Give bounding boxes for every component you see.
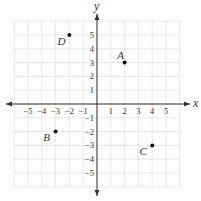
y-axis-arrow-icon — [95, 190, 100, 196]
y-tick-label: 4 — [90, 44, 95, 54]
y-tick-label: 5 — [90, 30, 94, 40]
y-tick-label: −3 — [85, 140, 94, 150]
x-tick-label: 5 — [164, 106, 168, 116]
y-axis-arrow-icon — [95, 14, 100, 20]
x-axis-label: x — [192, 96, 199, 110]
point-label-c: C — [140, 145, 148, 157]
point-d — [67, 33, 71, 37]
x-tick-label: −2 — [65, 106, 74, 116]
y-tick-label: −1 — [85, 113, 94, 123]
x-tick-label: −5 — [23, 106, 32, 116]
axes — [6, 14, 190, 196]
x-tick-label: 2 — [122, 106, 126, 116]
point-label-d: D — [56, 35, 65, 47]
point-b — [54, 130, 58, 134]
x-axis-arrow-icon — [6, 102, 12, 107]
x-tick-label: −4 — [37, 106, 47, 116]
y-tick-label: 2 — [90, 71, 94, 81]
x-tick-label: 3 — [136, 106, 140, 116]
x-axis-arrow-icon — [184, 102, 190, 107]
points: ABCD — [43, 33, 154, 157]
y-axis-label: y — [93, 0, 100, 13]
point-label-b: B — [43, 131, 50, 143]
coordinate-plane: −5−4−3−2−11234554321−1−2−3−4−5 ABCD x y — [0, 0, 201, 201]
x-tick-label: 4 — [150, 106, 155, 116]
x-tick-label: 1 — [109, 106, 113, 116]
y-tick-label: 3 — [90, 58, 94, 68]
y-tick-label: −4 — [85, 154, 95, 164]
point-label-a: A — [116, 49, 124, 61]
x-tick-label: −3 — [51, 106, 60, 116]
y-tick-label: 1 — [90, 85, 94, 95]
y-tick-label: −2 — [85, 127, 94, 137]
point-c — [150, 143, 154, 147]
y-tick-label: −5 — [85, 168, 94, 178]
point-a — [123, 61, 127, 65]
